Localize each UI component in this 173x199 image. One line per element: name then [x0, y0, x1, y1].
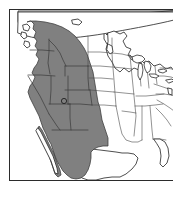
boundary-ga-sc — [156, 108, 171, 126]
north-america-map — [9, 9, 173, 180]
lake-erie — [149, 74, 159, 78]
boundary-pa-ny — [157, 76, 173, 78]
boundary-sc-nc — [157, 100, 173, 111]
boundary-ar-la — [122, 111, 136, 113]
boundary-al-ga — [150, 106, 153, 139]
boundary-tn-ms-al — [135, 104, 163, 106]
chesapeake-bay — [168, 88, 172, 95]
boundary-mo-ar — [114, 92, 134, 94]
queen-charlotte-islands — [21, 32, 27, 39]
puget-sound-detail — [24, 41, 30, 48]
lake-michigan — [138, 63, 143, 80]
florida-peninsula — [154, 139, 169, 167]
map-frame — [9, 9, 173, 181]
boundary-tx-la — [116, 106, 142, 142]
figure-container — [0, 0, 173, 199]
lake-ontario — [158, 69, 167, 73]
lake-huron — [144, 61, 151, 73]
long-island — [166, 79, 173, 83]
